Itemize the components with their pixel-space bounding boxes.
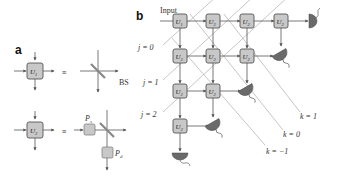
unit-u2: U2 — [173, 49, 187, 63]
detector-icon — [172, 153, 190, 166]
unit-u2: U2 — [274, 14, 288, 28]
k-label-neg1: k = −1 — [266, 147, 288, 156]
k-label-1: k = 1 — [300, 112, 317, 121]
equiv-sign-2: ≡ — [62, 127, 67, 136]
beamsplitter-block — [80, 50, 118, 92]
unit-u2: U2 — [206, 14, 220, 28]
diagram-canvas: a U1 ≡ BS U2 ≡ Ps Pd b — [0, 0, 337, 179]
detectors — [172, 8, 320, 166]
phase-bs-block — [74, 110, 126, 170]
u1-block: U1 — [14, 52, 54, 90]
detector-icon — [272, 49, 295, 73]
pd-label: Pd — [114, 149, 123, 159]
panel-a-label: a — [15, 43, 22, 57]
unit-u2: U2 — [240, 49, 254, 63]
unit-u2: U2 — [206, 84, 220, 98]
phase-shifter-d-icon — [102, 147, 113, 158]
ps-label: Ps — [84, 114, 92, 124]
unit-u1: U1 — [173, 14, 187, 28]
detector-icon — [205, 119, 228, 143]
k-label-0: k = 0 — [283, 130, 300, 139]
equiv-sign-1: ≡ — [62, 68, 67, 77]
unit-u2: U2 — [173, 84, 187, 98]
j-label-0: j = 0 — [137, 43, 154, 52]
panel-b-label: b — [136, 9, 143, 23]
detector-icon — [309, 8, 320, 28]
unit-u2: U2 — [240, 14, 254, 28]
phase-shifter-s-icon — [84, 124, 95, 135]
j-label-2: j = 2 — [140, 110, 157, 119]
u2-block: U2 — [14, 111, 54, 150]
unit-u2: U2 — [173, 119, 187, 133]
bs-label: BS — [119, 78, 129, 87]
unit-u2: U2 — [206, 49, 220, 63]
j-label-1: j = 1 — [142, 78, 159, 87]
detector-icon — [238, 84, 261, 108]
